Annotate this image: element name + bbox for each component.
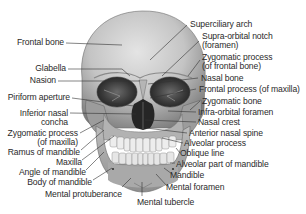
label-oblique-line: Oblique line: [180, 149, 224, 158]
label-mental-tubercle: Mental tubercle: [137, 198, 194, 207]
label-nasion: Nasion: [30, 76, 56, 85]
label-supra-orbital-notch-line2: (foramen): [202, 41, 238, 50]
label-maxilla: Maxilla: [56, 158, 82, 167]
skull-diagram: Frontal bone Glabella Nasion Piriform ap…: [0, 0, 306, 214]
label-anterior-nasal-spine: Anterior nasal spine: [189, 129, 263, 138]
label-zygomatic-bone: Zygomatic bone: [202, 97, 262, 106]
label-zygomatic-process-frontal-line2: (of frontal bone): [202, 62, 261, 71]
label-nasal-crest: Nasal crest: [198, 118, 240, 127]
label-infra-orbital-foramen: Infra-orbital foramen: [198, 108, 273, 117]
label-mental-foramen: Mental foramen: [166, 183, 224, 192]
label-inferior-nasal-concha-line2: concha: [41, 118, 68, 127]
label-mental-protuberance: Mental protuberance: [45, 190, 122, 199]
label-piriform-aperture: Piriform aperture: [8, 93, 70, 102]
label-angle-of-mandible: Angle of mandible: [19, 168, 86, 177]
label-frontal-bone: Frontal bone: [17, 38, 64, 47]
label-zygomatic-process-maxilla-line2: (of maxilla): [37, 138, 78, 147]
label-frontal-process-maxilla: Frontal process (of maxilla): [199, 85, 300, 94]
label-mandible: Mandible: [170, 171, 204, 180]
label-nasal-bone: Nasal bone: [201, 74, 243, 83]
lower-teeth: [112, 152, 174, 165]
label-alveolar-part-of-mandible: Alveolar part of mandible: [176, 160, 269, 169]
label-superciliary-arch: Superciliary arch: [190, 20, 252, 29]
label-glabella: Glabella: [35, 64, 66, 73]
label-body-of-mandible: Body of mandible: [27, 178, 92, 187]
left-orbit: [97, 77, 137, 107]
label-ramus-of-mandible: Ramus of mandible: [8, 148, 80, 157]
label-alveolar-process: Alveolar process: [184, 139, 246, 148]
